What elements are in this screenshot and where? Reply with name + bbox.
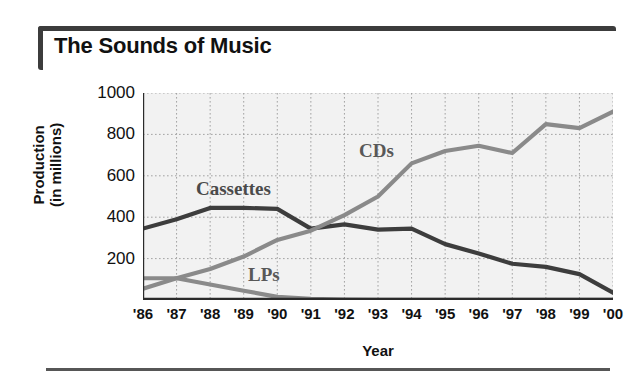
x-tick-label: '95 — [425, 305, 465, 322]
chart-title: The Sounds of Music — [54, 33, 271, 59]
x-tick-label: '94 — [392, 305, 432, 322]
series-label-lps: LPs — [248, 264, 280, 286]
top-rule-decoration — [38, 26, 616, 31]
x-tick-label: '90 — [257, 305, 297, 322]
x-tick-label: '93 — [358, 305, 398, 322]
x-tick-label: '92 — [324, 305, 364, 322]
x-tick-label: '99 — [559, 305, 599, 322]
bottom-rule-decoration — [46, 368, 610, 371]
left-rule-decoration — [38, 26, 43, 70]
y-axis-title-line2: (in millions) — [48, 85, 65, 245]
x-tick-label: '91 — [291, 305, 331, 322]
x-tick-label: '00 — [593, 305, 626, 322]
y-tick-label: 200 — [47, 249, 135, 269]
plot-area: Cassettes CDs LPs — [143, 93, 613, 300]
x-tick-label: '96 — [459, 305, 499, 322]
series-label-cds: CDs — [359, 140, 394, 162]
x-tick-label: '89 — [224, 305, 264, 322]
y-axis-title: Production (in millions) — [31, 85, 65, 245]
x-tick-label: '97 — [492, 305, 532, 322]
x-tick-label: '88 — [190, 305, 230, 322]
x-axis-title: Year — [143, 342, 613, 359]
x-tick-label: '87 — [157, 305, 197, 322]
series-label-cassettes: Cassettes — [196, 178, 271, 200]
x-tick-label: '98 — [526, 305, 566, 322]
y-axis-title-line1: Production — [31, 85, 48, 245]
figure-root: The Sounds of Music Production (in milli… — [0, 0, 626, 376]
x-tick-label: '86 — [123, 305, 163, 322]
